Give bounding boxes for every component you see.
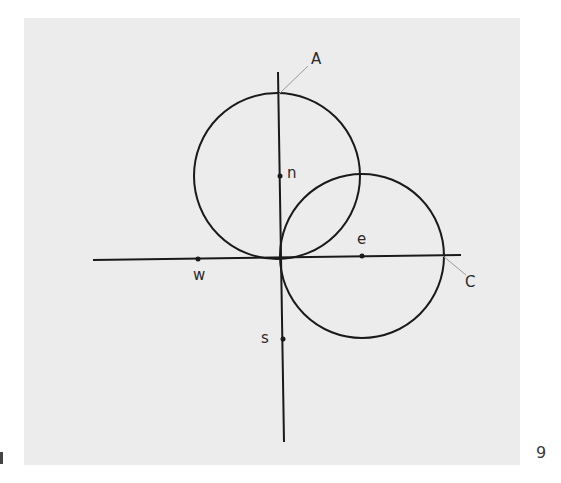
label-e: e <box>357 232 366 247</box>
diagram <box>0 0 561 483</box>
point-w <box>196 257 201 262</box>
label-n: n <box>287 166 297 181</box>
label-w: w <box>193 268 205 283</box>
upper-circle <box>194 93 360 259</box>
label-s: s <box>261 331 269 346</box>
point-s <box>281 337 286 342</box>
page-number: 9 <box>536 445 546 461</box>
label-a: A <box>311 52 321 67</box>
leader-line-a <box>279 66 308 94</box>
label-c: C <box>465 275 475 290</box>
margin-mark <box>0 452 3 464</box>
leader-line-c <box>443 256 466 275</box>
point-e <box>360 254 365 259</box>
point-n <box>278 174 283 179</box>
